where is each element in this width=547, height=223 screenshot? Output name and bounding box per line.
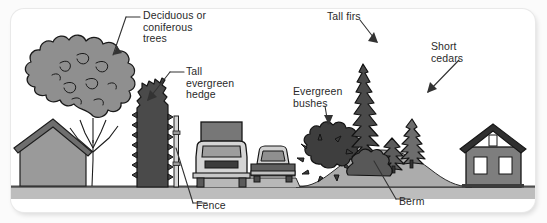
car: [251, 146, 295, 182]
label-deciduous-coniferous-trees: Deciduous or coniferous trees: [143, 10, 206, 45]
label-short-cedars: Short cedars: [431, 41, 463, 64]
ground-plane: [11, 186, 535, 200]
label-tall-firs: Tall firs: [327, 11, 361, 23]
truck: [193, 122, 250, 187]
label-tall-evergreen-hedge: Tall evergreen hedge: [186, 66, 234, 101]
roadway: [196, 178, 300, 187]
house-left: [14, 119, 92, 186]
figure-container: Deciduous or coniferous trees Tall everg…: [0, 0, 547, 223]
landscape-illustration: [0, 0, 547, 223]
label-berm: Berm: [399, 196, 425, 208]
tall-fir: [347, 64, 393, 176]
label-fence: Fence: [196, 200, 226, 212]
house-right: [460, 124, 526, 188]
label-evergreen-bushes: Evergreen bushes: [293, 86, 342, 109]
wood-fence: [173, 116, 180, 187]
